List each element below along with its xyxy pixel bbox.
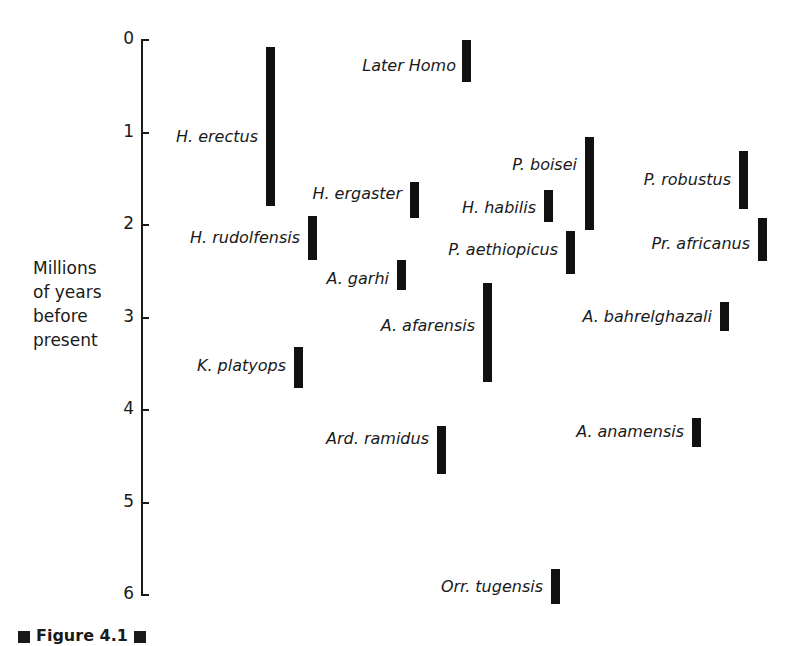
y-axis-label: Millions of years before present <box>33 256 102 352</box>
y-axis-tick-label: 0 <box>114 28 134 48</box>
y-axis-tick <box>141 224 149 226</box>
y-axis-tick <box>141 317 149 319</box>
range-bar <box>692 418 701 447</box>
taxon-label: P. boisei <box>512 155 577 175</box>
taxon-label: P. aethiopicus <box>448 240 558 260</box>
y-axis-tick-label: 1 <box>114 121 134 141</box>
taxon-label: H. rudolfensis <box>190 228 300 248</box>
taxon-label: A. afarensis <box>381 316 475 336</box>
y-axis-tick-label: 4 <box>114 398 134 418</box>
taxon-label: Later Homo <box>362 56 456 76</box>
taxon-label: Pr. africanus <box>651 234 750 254</box>
y-axis-tick-label: 6 <box>114 583 134 603</box>
range-bar <box>758 218 767 261</box>
range-bar <box>437 426 446 474</box>
range-bar <box>566 231 575 274</box>
range-bar <box>483 283 492 382</box>
range-bar <box>585 137 594 230</box>
taxon-label: H. ergaster <box>312 184 402 204</box>
y-axis-tick <box>141 502 149 504</box>
y-axis-tick-label: 2 <box>114 213 134 233</box>
y-axis-tick <box>141 409 149 411</box>
range-bar <box>551 569 560 604</box>
range-bar <box>410 182 419 217</box>
taxon-label: K. platyops <box>197 356 286 376</box>
taxon-label: Orr. tugensis <box>441 577 543 597</box>
caption-square-icon <box>134 631 146 643</box>
taxon-label: A. anamensis <box>576 422 684 442</box>
taxon-label: H. habilis <box>462 198 536 218</box>
y-axis-tick <box>141 132 149 134</box>
range-bar <box>462 40 471 82</box>
range-bar <box>739 151 748 209</box>
y-axis-tick-label: 3 <box>114 306 134 326</box>
y-axis-tick <box>141 39 149 41</box>
taxon-label: Ard. ramidus <box>326 429 429 449</box>
caption-square-icon <box>18 631 30 643</box>
taxon-label: A. garhi <box>326 269 389 289</box>
caption-text: Figure 4.1 <box>36 626 128 645</box>
range-bar <box>294 347 303 388</box>
range-bar <box>544 190 553 222</box>
taxon-label: A. bahrelghazali <box>582 307 712 327</box>
taxon-label: H. erectus <box>176 127 258 147</box>
range-bar <box>308 216 317 260</box>
range-bar <box>720 302 729 332</box>
taxon-label: P. robustus <box>644 170 731 190</box>
y-axis-tick-label: 5 <box>114 491 134 511</box>
y-axis-tick <box>141 594 149 596</box>
range-bar <box>397 260 406 290</box>
figure-caption: Figure 4.1 <box>12 626 152 646</box>
range-bar <box>266 47 275 206</box>
